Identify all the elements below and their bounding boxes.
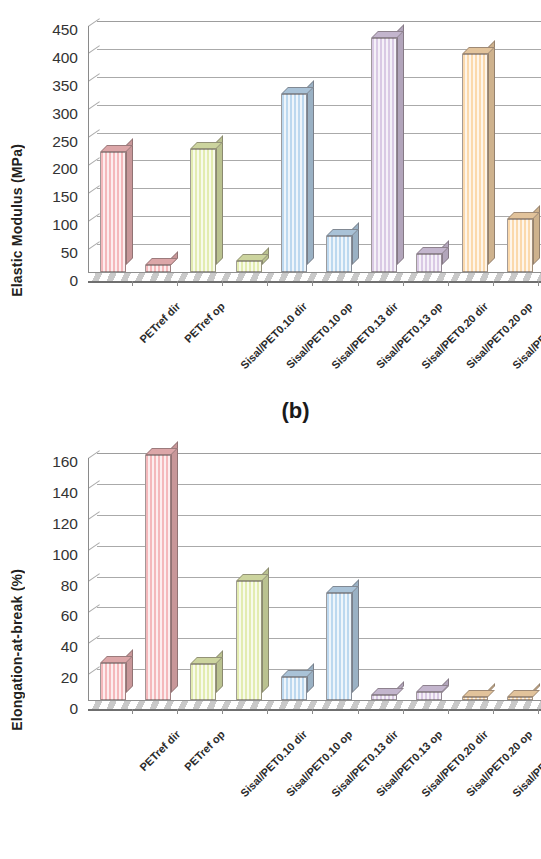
x-axis-tick-mark — [177, 709, 178, 714]
x-axis-category-labels-c: PETref dirPETref opSisal/PET0.10 dirSisa… — [0, 440, 541, 580]
bar-face — [416, 692, 442, 700]
bar-face — [236, 581, 262, 700]
y-axis-tick-mark — [88, 225, 89, 226]
bar — [236, 581, 262, 700]
bar-face — [326, 593, 352, 700]
x-axis-tick-mark — [538, 709, 539, 714]
bar-side — [126, 138, 133, 265]
bar-top — [416, 685, 449, 692]
bar-side — [352, 579, 359, 693]
bar-face — [190, 149, 216, 272]
y-tick-label: 40 — [61, 638, 78, 656]
bar-face — [507, 219, 533, 272]
x-axis-tick-mark — [358, 281, 359, 286]
bar — [145, 265, 171, 272]
y-tick-label: 200 — [52, 160, 78, 178]
y-axis-tick-mark — [88, 647, 89, 648]
bar — [236, 261, 262, 272]
x-axis-tick-mark — [448, 709, 449, 714]
y-axis-tick-mark — [88, 586, 89, 587]
bar-face — [416, 254, 442, 272]
bar-face — [100, 152, 126, 272]
x-axis-tick-mark — [132, 281, 133, 286]
x-axis-tick-mark — [493, 709, 494, 714]
x-axis-tick-mark — [538, 281, 539, 286]
bar-face — [371, 695, 397, 700]
x-axis-tick-mark — [222, 281, 223, 286]
gridline-connector — [88, 213, 99, 221]
x-axis-tick-mark — [177, 281, 178, 286]
x-axis-baseline — [88, 709, 541, 710]
x-axis-tick-mark — [448, 281, 449, 286]
y-axis-tick-mark — [88, 678, 89, 679]
x-axis-tick-mark — [493, 281, 494, 286]
gridline-connector — [88, 157, 99, 165]
bar-top — [507, 690, 540, 697]
bar-side — [262, 567, 269, 693]
x-axis-tick-mark — [403, 709, 404, 714]
gridline-connector — [88, 185, 99, 193]
bar-top — [371, 688, 404, 695]
y-axis-tick-mark — [88, 616, 89, 617]
bar-side — [216, 135, 223, 265]
y-tick-label: 0 — [69, 272, 78, 290]
x-axis-tick-mark — [267, 709, 268, 714]
bar — [326, 593, 352, 700]
bar — [507, 219, 533, 272]
x-axis-category-labels-b: PETref dirPETref opSisal/PET0.10 dirSisa… — [0, 0, 541, 140]
bar — [507, 697, 533, 700]
y-tick-label: 20 — [61, 669, 78, 687]
gridline-connector — [88, 241, 99, 249]
x-axis-tick-mark — [222, 709, 223, 714]
bar-face — [462, 697, 488, 700]
y-axis-tick-mark — [88, 142, 89, 143]
bar-face — [145, 265, 171, 272]
bar — [190, 664, 216, 700]
y-tick-label: 150 — [52, 188, 78, 206]
bar — [462, 697, 488, 700]
x-axis-tick-mark — [132, 709, 133, 714]
bar — [100, 663, 126, 700]
y-tick-label: 100 — [52, 216, 78, 234]
y-axis-tick-mark — [88, 169, 89, 170]
x-axis-tick-mark — [312, 281, 313, 286]
figure-b-elastic-modulus: Elastic Modulus (MPa) 050100150200250300… — [0, 0, 541, 440]
bar-side — [307, 663, 314, 693]
bar — [416, 254, 442, 272]
gridline-connector — [88, 666, 99, 674]
bar — [100, 152, 126, 272]
bar-top — [462, 690, 495, 697]
bar — [416, 692, 442, 700]
bar — [326, 236, 352, 272]
bar-face — [507, 697, 533, 700]
gridline-connector — [88, 635, 99, 643]
bar — [190, 149, 216, 272]
y-tick-label: 0 — [69, 700, 78, 718]
y-axis-tick-mark — [88, 197, 89, 198]
bar-face — [190, 664, 216, 700]
y-tick-label: 60 — [61, 607, 78, 625]
x-axis-tick-mark — [312, 709, 313, 714]
x-axis-baseline — [88, 281, 541, 282]
x-axis-tick-mark — [267, 281, 268, 286]
bar-top — [145, 258, 178, 265]
x-axis-tick-mark — [403, 281, 404, 286]
figure-c-elongation-at-break: Elongation-at-break (%) 0204060801001201… — [0, 440, 541, 859]
bar — [281, 677, 307, 700]
x-axis-tick-mark — [358, 709, 359, 714]
y-tick-label: 50 — [61, 244, 78, 262]
gridline-connector — [88, 604, 99, 612]
bar — [371, 695, 397, 700]
bar-face — [236, 261, 262, 272]
bar-face — [326, 236, 352, 272]
bar-face — [100, 663, 126, 700]
bar-face — [281, 677, 307, 700]
figure-caption-b: (b) — [0, 398, 541, 424]
y-axis-tick-mark — [88, 253, 89, 254]
